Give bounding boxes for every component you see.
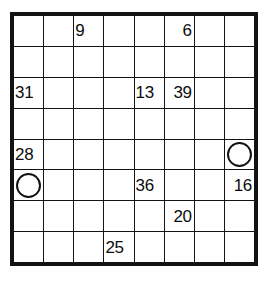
grid-cell[interactable] [134,16,164,47]
cell-content [225,232,254,262]
grid-cell[interactable]: 25 [104,232,134,263]
grid-cell-blocked [14,201,44,232]
cell-content [14,232,43,262]
cell-content: 6 [165,16,194,46]
cell-content: 36 [135,170,164,200]
grid-row: 311339 [14,77,255,108]
cell-content [44,170,73,200]
cell-content [104,170,133,200]
clue-number: 16 [225,177,254,194]
cell-content [104,47,133,77]
grid-row: 20 [14,201,255,232]
grid-cell[interactable] [134,201,164,232]
cell-content: 16 [225,170,254,200]
grid-cell[interactable]: 28 [14,139,44,170]
grid-cell[interactable] [164,232,194,263]
grid-cell-blocked [44,46,74,77]
grid-cell[interactable]: 31 [14,77,44,108]
grid-row [14,108,255,139]
cell-content [44,16,73,46]
grid-cell[interactable] [74,201,104,232]
grid-table: 963113392836162025 [13,15,255,263]
cell-content [165,109,194,139]
grid-cell[interactable] [74,139,104,170]
grid-cell[interactable] [44,77,74,108]
grid-cell[interactable] [74,170,104,201]
grid-cell[interactable] [104,77,134,108]
grid-cell[interactable] [104,170,134,201]
cell-content [14,170,43,200]
grid-cell[interactable] [194,77,224,108]
cell-content [165,232,194,262]
grid-cell[interactable] [134,232,164,263]
cell-content [135,47,164,77]
grid-cell[interactable] [14,170,44,201]
cell-content [135,232,164,262]
grid-cell[interactable]: 36 [134,170,164,201]
grid-row: 25 [14,232,255,263]
cell-content [104,201,133,231]
clue-number: 31 [14,84,43,101]
cell-content [195,140,224,170]
grid-cell[interactable] [164,46,194,77]
cell-content [44,232,73,262]
clue-number: 9 [74,22,103,39]
grid-row [14,46,255,77]
grid-cell[interactable] [104,46,134,77]
grid-cell[interactable]: 16 [224,170,254,201]
grid-body: 963113392836162025 [14,16,255,263]
grid-cell[interactable] [164,170,194,201]
grid-cell[interactable]: 9 [74,16,104,47]
cell-content [14,16,43,46]
grid-cell[interactable] [74,232,104,263]
cell-content [44,78,73,108]
cell-content: 39 [165,78,194,108]
cell-content: 31 [14,78,43,108]
cell-content [74,47,103,77]
grid-cell[interactable] [164,139,194,170]
grid-cell[interactable] [44,139,74,170]
grid-cell-blocked [104,139,134,170]
cell-content [165,170,194,200]
grid-cell-blocked [224,201,254,232]
puzzle-container: 963113392836162025 [0,0,272,282]
grid-cell[interactable] [74,46,104,77]
grid-cell[interactable] [194,108,224,139]
grid-cell[interactable] [104,16,134,47]
cell-content: 20 [165,201,194,231]
grid-cell[interactable] [74,108,104,139]
grid-cell[interactable] [74,77,104,108]
grid-cell[interactable] [14,108,44,139]
grid-cell[interactable] [194,139,224,170]
grid-cell-blocked [194,16,224,47]
clue-number: 25 [104,239,133,256]
clue-number: 13 [135,84,164,101]
grid-cell[interactable]: 39 [164,77,194,108]
grid-row: 3616 [14,170,255,201]
grid-cell[interactable]: 6 [164,16,194,47]
grid-cell[interactable] [164,108,194,139]
grid-cell[interactable] [44,108,74,139]
circle-marker-icon [227,142,252,167]
cell-content [74,201,103,231]
grid-cell-blocked [44,201,74,232]
grid-row: 96 [14,16,255,47]
cell-content [44,140,73,170]
grid-cell[interactable] [194,170,224,201]
grid-cell[interactable] [134,46,164,77]
grid-cell-blocked [194,201,224,232]
cell-content: 9 [74,16,103,46]
cell-content [104,78,133,108]
cell-content [74,140,103,170]
grid-cell[interactable] [44,170,74,201]
grid-cell[interactable]: 20 [164,201,194,232]
cell-content: 25 [104,232,133,262]
grid-cell[interactable]: 13 [134,77,164,108]
grid-cell[interactable] [224,139,254,170]
grid-cell[interactable] [224,77,254,108]
cell-content [195,201,224,231]
grid-cell[interactable] [104,201,134,232]
grid-cell[interactable] [224,108,254,139]
grid-cell-blocked [134,108,164,139]
grid-cell-blocked [224,46,254,77]
